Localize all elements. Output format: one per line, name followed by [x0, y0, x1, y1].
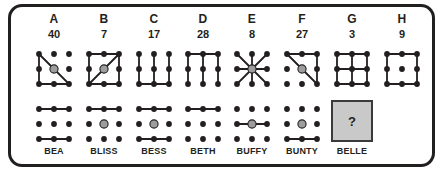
grid-dot[interactable] [234, 106, 240, 112]
grid-dot-highlighted[interactable] [150, 120, 158, 128]
grid-dot[interactable] [66, 121, 72, 127]
grid-dot[interactable] [200, 81, 206, 87]
grid-dot[interactable] [36, 66, 42, 72]
grid-dot[interactable] [151, 66, 157, 72]
dot-grid-top[interactable] [132, 47, 176, 91]
grid-dot[interactable] [364, 51, 370, 57]
grid-dot[interactable] [151, 136, 157, 142]
grid-dot-highlighted[interactable] [100, 65, 108, 73]
grid-dot[interactable] [399, 81, 405, 87]
grid-dot[interactable] [116, 121, 122, 127]
grid-dot[interactable] [249, 51, 255, 57]
grid-dot[interactable] [66, 51, 72, 57]
grid-dot-highlighted[interactable] [298, 120, 306, 128]
grid-dot[interactable] [101, 81, 107, 87]
grid-dot[interactable] [36, 121, 42, 127]
grid-dot[interactable] [414, 51, 420, 57]
grid-dot[interactable] [284, 51, 290, 57]
grid-dot[interactable] [264, 51, 270, 57]
grid-dot[interactable] [349, 81, 355, 87]
grid-dot[interactable] [116, 136, 122, 142]
grid-dot[interactable] [414, 81, 420, 87]
grid-dot[interactable] [86, 66, 92, 72]
grid-dot[interactable] [66, 106, 72, 112]
dot-grid-top[interactable] [380, 47, 424, 91]
grid-dot[interactable] [86, 51, 92, 57]
grid-dot[interactable] [36, 106, 42, 112]
grid-dot[interactable] [249, 106, 255, 112]
grid-dot[interactable] [166, 51, 172, 57]
grid-dot[interactable] [249, 136, 255, 142]
grid-dot[interactable] [384, 51, 390, 57]
grid-dot-highlighted[interactable] [100, 120, 108, 128]
grid-dot[interactable] [200, 51, 206, 57]
grid-dot[interactable] [136, 106, 142, 112]
grid-dot[interactable] [215, 81, 221, 87]
grid-dot[interactable] [264, 81, 270, 87]
grid-dot[interactable] [151, 106, 157, 112]
grid-dot[interactable] [264, 106, 270, 112]
grid-dot[interactable] [399, 66, 405, 72]
grid-dot[interactable] [234, 51, 240, 57]
grid-dot[interactable] [136, 66, 142, 72]
grid-dot[interactable] [215, 136, 221, 142]
grid-dot[interactable] [215, 121, 221, 127]
dot-grid-bot[interactable] [82, 102, 126, 146]
grid-dot[interactable] [314, 121, 320, 127]
grid-dot[interactable] [314, 81, 320, 87]
grid-dot[interactable] [66, 81, 72, 87]
grid-dot[interactable] [185, 136, 191, 142]
grid-dot[interactable] [86, 121, 92, 127]
grid-dot[interactable] [51, 136, 57, 142]
grid-dot[interactable] [86, 136, 92, 142]
grid-dot[interactable] [136, 121, 142, 127]
grid-dot[interactable] [51, 121, 57, 127]
grid-dot[interactable] [384, 81, 390, 87]
grid-dot[interactable] [314, 51, 320, 57]
grid-dot[interactable] [185, 81, 191, 87]
grid-dot[interactable] [334, 51, 340, 57]
dot-grid-top[interactable] [82, 47, 126, 91]
grid-dot[interactable] [36, 81, 42, 87]
grid-dot[interactable] [334, 66, 340, 72]
grid-dot[interactable] [116, 106, 122, 112]
grid-dot[interactable] [101, 136, 107, 142]
grid-dot[interactable] [86, 81, 92, 87]
dot-grid-top[interactable] [32, 47, 76, 91]
grid-dot[interactable] [101, 51, 107, 57]
grid-dot[interactable] [414, 66, 420, 72]
question-box[interactable]: ? [331, 100, 373, 142]
grid-dot[interactable] [399, 51, 405, 57]
grid-dot[interactable] [66, 136, 72, 142]
grid-dot[interactable] [284, 136, 290, 142]
grid-dot-highlighted[interactable] [298, 65, 306, 73]
grid-dot[interactable] [364, 81, 370, 87]
grid-dot[interactable] [200, 66, 206, 72]
grid-dot[interactable] [249, 81, 255, 87]
grid-dot[interactable] [349, 66, 355, 72]
grid-dot[interactable] [166, 106, 172, 112]
grid-dot[interactable] [136, 136, 142, 142]
grid-dot[interactable] [284, 81, 290, 87]
grid-dot[interactable] [364, 66, 370, 72]
dot-grid-top[interactable] [181, 47, 225, 91]
grid-dot[interactable] [299, 106, 305, 112]
grid-dot[interactable] [116, 51, 122, 57]
grid-dot[interactable] [284, 106, 290, 112]
dot-grid-bot[interactable] [132, 102, 176, 146]
grid-dot-highlighted[interactable] [248, 120, 256, 128]
grid-dot[interactable] [166, 121, 172, 127]
grid-dot[interactable] [200, 106, 206, 112]
grid-dot[interactable] [264, 66, 270, 72]
grid-dot[interactable] [264, 121, 270, 127]
grid-dot[interactable] [234, 121, 240, 127]
grid-dot[interactable] [185, 51, 191, 57]
grid-dot[interactable] [314, 136, 320, 142]
grid-dot[interactable] [101, 106, 107, 112]
grid-dot[interactable] [166, 66, 172, 72]
dot-grid-bot[interactable] [181, 102, 225, 146]
grid-dot[interactable] [200, 136, 206, 142]
grid-dot[interactable] [36, 51, 42, 57]
grid-dot-highlighted[interactable] [50, 65, 58, 73]
grid-dot-highlighted[interactable] [248, 65, 256, 73]
